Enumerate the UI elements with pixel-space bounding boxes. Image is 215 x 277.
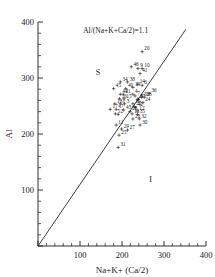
- point-label: 24: [145, 96, 151, 102]
- data-point: 46: [130, 61, 139, 69]
- y-tick-label: 100: [21, 185, 34, 195]
- x-tick-label: 300: [158, 250, 171, 260]
- data-point: 41: [138, 67, 147, 75]
- x-tick-label: 100: [74, 250, 87, 260]
- point-label: 29: [124, 123, 130, 129]
- field-label-s: S: [96, 68, 100, 77]
- point-label: 14: [140, 78, 146, 84]
- x-tick-label: 200: [116, 250, 129, 260]
- ratio-annotation: Al/(Na+K+Ca/2)=1.1: [83, 26, 148, 35]
- ratio-reference-line: [38, 29, 186, 246]
- data-point: 11: [114, 119, 123, 127]
- point-label: 46: [133, 61, 139, 67]
- point-label: 35: [140, 108, 146, 114]
- data-point: 20: [140, 45, 149, 53]
- point-label: 44: [123, 88, 129, 94]
- y-tick-label: 300: [21, 73, 34, 83]
- plot-canvas: 1002003004001002003004001234567891011121…: [0, 0, 215, 277]
- field-label-i: I: [149, 175, 152, 184]
- y-tick-label: 200: [21, 129, 34, 139]
- point-label: 43: [126, 104, 132, 110]
- point-label: 37: [140, 93, 146, 99]
- point-label: 20: [144, 45, 150, 51]
- data-point: 25: [117, 129, 126, 137]
- data-point: 30: [138, 119, 147, 127]
- point-label: 45: [116, 82, 122, 88]
- point-label: 47: [118, 103, 124, 109]
- point-label: 31: [120, 141, 126, 147]
- y-tick-label: 400: [21, 17, 34, 27]
- point-label: 42: [138, 101, 144, 107]
- point-label: 19: [135, 81, 141, 87]
- scatter-plot-figure: 1002003004001002003004001234567891011121…: [0, 0, 215, 277]
- point-label: 30: [142, 119, 148, 125]
- point-label: 41: [142, 67, 148, 73]
- data-point: 31: [117, 141, 126, 149]
- point-label: 38: [130, 76, 136, 82]
- point-label: 17: [112, 103, 118, 109]
- point-label: 40: [128, 82, 134, 88]
- x-axis-title: Na+K+ (Ca/2): [96, 265, 148, 275]
- point-label: 36: [152, 87, 158, 93]
- data-point: 45: [112, 82, 121, 90]
- point-label: 27: [130, 124, 136, 130]
- x-tick-label: 400: [200, 250, 213, 260]
- y-axis-title: Al: [4, 129, 14, 138]
- data-points-group: 1234567891011121314151617181920212223242…: [109, 45, 158, 149]
